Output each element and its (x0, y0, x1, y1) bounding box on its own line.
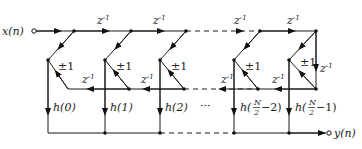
svg-text:z-1: z-1 (81, 73, 95, 86)
svg-text:h(: h( (240, 101, 252, 114)
svg-text:±1: ±1 (171, 60, 187, 73)
svg-text:2: 2 (308, 108, 314, 117)
coef-h1: h(1) (110, 101, 133, 114)
ellipsis: ··· (200, 100, 211, 113)
tap-0: ±1 (48, 31, 74, 89)
svg-text:z-1: z-1 (96, 14, 110, 27)
input-label: x(n) (2, 25, 24, 38)
tap-1: ±1 (105, 31, 132, 89)
top-delay-labels: z-1 z-1 z-1 z-1 (96, 14, 300, 27)
svg-text:2: 2 (253, 108, 259, 117)
svg-text:z-1: z-1 (152, 14, 166, 27)
tap-n2-2: ±1 (234, 31, 261, 89)
input-terminal (32, 29, 36, 33)
coef-hN2-2: h( N 2 −2) (240, 98, 282, 117)
svg-text:z-1: z-1 (286, 14, 300, 27)
fir-structure-diagram: x(n) z-1 z-1 z-1 z-1 z-1 z-1 z-1 z (0, 0, 362, 149)
svg-text:±1: ±1 (58, 60, 74, 73)
svg-text:−1): −1) (316, 101, 337, 114)
output-label: y(n) (333, 127, 356, 140)
svg-text:z-1: z-1 (140, 73, 154, 86)
end-delay-label: z-1 (319, 62, 333, 75)
svg-text:±1: ±1 (300, 56, 316, 69)
svg-text:z-1: z-1 (220, 73, 234, 86)
coef-hN2-1: h( N 2 −1) (295, 98, 337, 117)
svg-text:z-1: z-1 (233, 14, 247, 27)
tap-2: ±1 (160, 31, 187, 89)
svg-text:±1: ±1 (116, 60, 132, 73)
svg-text:−2): −2) (261, 101, 282, 114)
svg-text:h(: h( (295, 101, 307, 114)
coef-h2: h(2) (165, 101, 188, 114)
svg-text:±1: ±1 (245, 60, 261, 73)
tap-n2-1: ±1 (289, 31, 316, 89)
coef-h0: h(0) (53, 101, 76, 114)
output-terminal (327, 131, 331, 135)
svg-text:z-1: z-1 (271, 73, 285, 86)
